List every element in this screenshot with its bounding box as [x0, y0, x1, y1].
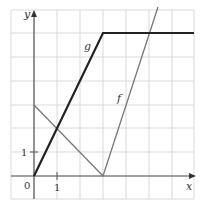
- x-tick-label-1: 1: [54, 182, 60, 193]
- grid: [11, 10, 194, 199]
- origin-label: 0: [24, 180, 30, 191]
- x-axis-label: x: [186, 180, 193, 193]
- axes: [11, 14, 192, 199]
- x-axis-arrow-icon: [189, 173, 196, 179]
- series-g-label: g: [84, 40, 91, 53]
- y-axis-arrow-icon: [31, 10, 37, 17]
- function-graph: y x 0 1 1 g f: [0, 0, 202, 212]
- y-tick-label-1: 1: [21, 147, 27, 158]
- y-axis-label: y: [23, 8, 31, 21]
- series-f-label: f: [116, 92, 123, 105]
